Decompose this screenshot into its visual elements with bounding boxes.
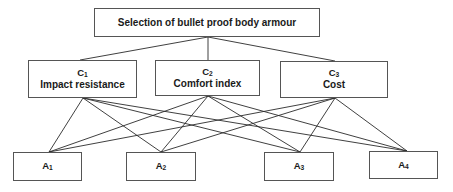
goal-label: Selection of bullet proof body armour	[118, 17, 296, 29]
criterion-code: C3	[329, 68, 340, 79]
goal-node: Selection of bullet proof body armour	[94, 8, 320, 37]
alternative-node-a2: A2	[126, 152, 196, 181]
criterion-code: C1	[77, 68, 88, 79]
alternative-code: A3	[294, 161, 305, 172]
criterion-label: Cost	[323, 79, 345, 91]
alternative-node-a4: A4	[369, 151, 438, 179]
alternative-code: A4	[398, 160, 409, 171]
criterion-node-c1: C1 Impact resistance	[28, 60, 137, 98]
criterion-node-c3: C3 Cost	[280, 61, 388, 98]
alternative-code: A1	[42, 161, 53, 172]
alternative-node-a1: A1	[13, 152, 82, 181]
criterion-node-c2: C2 Comfort index	[155, 60, 260, 96]
alternative-code: A2	[156, 161, 167, 172]
criterion-label: Impact resistance	[40, 79, 125, 91]
criterion-label: Comfort index	[174, 78, 242, 90]
alternative-node-a3: A3	[264, 152, 334, 181]
criterion-code: C2	[202, 67, 213, 78]
